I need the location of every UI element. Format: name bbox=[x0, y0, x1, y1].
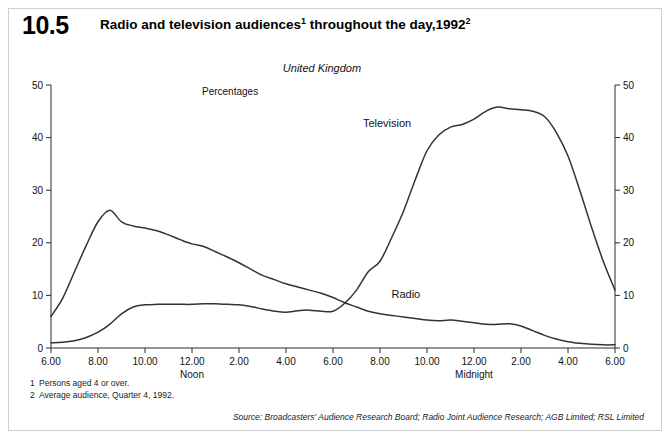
title-footnote-ref-2: 2 bbox=[466, 16, 471, 26]
x-tick-label: 4.00 bbox=[558, 356, 578, 367]
x-tick-label: 10.00 bbox=[414, 356, 439, 367]
x-tick-label: 12.00 bbox=[461, 356, 486, 367]
x-tick-label: 6.00 bbox=[41, 356, 61, 367]
series-line-radio bbox=[51, 210, 615, 345]
footnote-2-text: Average audience, Quarter 4, 1992. bbox=[39, 390, 174, 400]
line-chart-svg: TelevisionRadio 00101020203030404050506.… bbox=[22, 60, 648, 360]
footnotes-block: 1Persons aged 4 or over. 2Average audien… bbox=[30, 378, 174, 401]
series-annotation-radio: Radio bbox=[391, 288, 420, 300]
y-tick-label-right: 50 bbox=[623, 80, 635, 91]
series-annotation-television: Television bbox=[363, 117, 411, 129]
footnote-2-number: 2 bbox=[30, 390, 39, 402]
chart-plot-area: United Kingdom Percentages TelevisionRad… bbox=[22, 60, 648, 360]
x-tick-label: 4.00 bbox=[276, 356, 296, 367]
chart-title-text-2: throughout the day,1992 bbox=[306, 17, 466, 32]
chart-title-text: Radio and television audiences bbox=[100, 17, 301, 32]
x-tick-label: 6.00 bbox=[323, 356, 343, 367]
y-tick-label-right: 40 bbox=[623, 132, 635, 143]
x-tick-label: 8.00 bbox=[370, 356, 390, 367]
chart-page: 10.5 Radio and television audiences1 thr… bbox=[0, 0, 670, 439]
y-tick-label-right: 0 bbox=[623, 343, 629, 354]
y-tick-label-left: 40 bbox=[32, 132, 44, 143]
y-tick-label-left: 50 bbox=[32, 80, 44, 91]
y-tick-label-right: 30 bbox=[623, 185, 635, 196]
y-tick-label-left: 0 bbox=[37, 343, 43, 354]
source-line: Source: Broadcasters' Audience Research … bbox=[233, 412, 644, 422]
y-tick-label-left: 20 bbox=[32, 237, 44, 248]
x-period-label: Noon bbox=[180, 369, 204, 380]
x-tick-label: 6.00 bbox=[605, 356, 625, 367]
footnote-2: 2Average audience, Quarter 4, 1992. bbox=[30, 390, 174, 402]
footnote-1-text: Persons aged 4 or over. bbox=[39, 378, 129, 388]
footnote-1: 1Persons aged 4 or over. bbox=[30, 378, 174, 390]
series-group bbox=[51, 107, 615, 345]
x-tick-label: 2.00 bbox=[511, 356, 531, 367]
footnote-1-number: 1 bbox=[30, 378, 39, 390]
x-tick-label: 12.00 bbox=[179, 356, 204, 367]
series-line-television bbox=[51, 107, 615, 343]
axes-group bbox=[46, 85, 620, 353]
x-tick-label: 10.00 bbox=[132, 356, 157, 367]
page-title: Radio and television audiences1 througho… bbox=[100, 15, 471, 35]
y-tick-label-left: 30 bbox=[32, 185, 44, 196]
x-tick-label: 8.00 bbox=[88, 356, 108, 367]
annotation-group: TelevisionRadio bbox=[363, 117, 420, 300]
chart-header: 10.5 Radio and television audiences1 thr… bbox=[22, 10, 642, 44]
chart-number: 10.5 bbox=[22, 10, 69, 40]
x-period-label: Midnight bbox=[455, 369, 493, 380]
y-tick-label-right: 10 bbox=[623, 290, 635, 301]
x-tick-label: 2.00 bbox=[229, 356, 249, 367]
y-tick-label-right: 20 bbox=[623, 237, 635, 248]
y-tick-label-left: 10 bbox=[32, 290, 44, 301]
